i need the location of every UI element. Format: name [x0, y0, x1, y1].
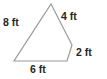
geometry-figure: 8 ft 4 ft 2 ft 6 ft	[0, 0, 107, 79]
polygon-shape	[0, 0, 107, 79]
side-label-right: 2 ft	[76, 46, 92, 58]
side-label-left: 8 ft	[3, 16, 19, 28]
side-label-upper-right: 4 ft	[61, 10, 77, 22]
side-label-bottom: 6 ft	[30, 63, 46, 75]
